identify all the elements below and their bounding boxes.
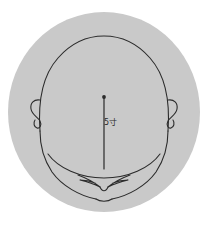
measure-line-endpoint-dot	[102, 95, 106, 99]
figure-container: 5寸	[0, 0, 208, 226]
head-diagram-svg	[0, 0, 208, 226]
measurement-label: 5寸	[104, 118, 117, 127]
